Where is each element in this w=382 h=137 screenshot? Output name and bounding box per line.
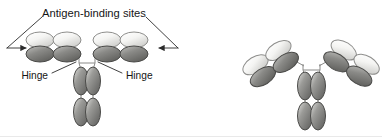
diagram-y-shaped-antibody xyxy=(239,36,382,130)
fc-domain-right-lower xyxy=(86,98,101,126)
domain-heavy-constant-right xyxy=(93,46,121,62)
domain-heavy-constant-left xyxy=(53,46,81,62)
hinge-leader-left xyxy=(52,62,76,73)
figure-root: Antigen-binding sites xyxy=(0,0,382,137)
y-fc-domain-right-upper xyxy=(311,72,326,100)
y-left-arm xyxy=(239,36,302,91)
flat-right-arm xyxy=(93,32,148,62)
domain-heavy-variable-right xyxy=(120,46,148,62)
y-right-arm xyxy=(320,36,382,91)
y-fc-domain-right-lower xyxy=(311,102,326,130)
flat-fc-stem xyxy=(74,67,101,126)
y-fc-stem xyxy=(298,72,326,130)
antibody-diagram: Antigen-binding sites xyxy=(0,0,382,137)
leader-line-right xyxy=(146,17,178,48)
domain-heavy-variable-left xyxy=(26,46,54,62)
hinge-label-left: Hinge xyxy=(21,70,48,81)
antigen-binding-sites-label: Antigen-binding sites xyxy=(42,7,146,19)
hinge-leaders xyxy=(52,62,122,73)
hinge-leader-right xyxy=(98,62,122,73)
hinge-label-right: Hinge xyxy=(126,70,153,81)
fc-domain-right-upper xyxy=(86,67,101,95)
flat-left-arm xyxy=(26,32,81,62)
diagram-flat-arm-antibody: Antigen-binding sites xyxy=(7,7,178,126)
